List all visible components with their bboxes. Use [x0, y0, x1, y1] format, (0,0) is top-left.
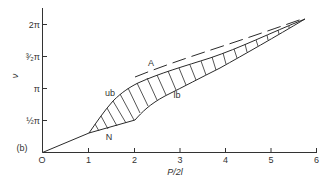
x-tick-labels: O 1 2 3 4 5 6 [38, 155, 319, 165]
hatch-line [107, 108, 117, 126]
label-lb: lb [173, 90, 180, 100]
x-tick-label-3: 3 [177, 155, 182, 165]
x-ticks [89, 148, 317, 153]
x-tick-label-1: 1 [86, 155, 91, 165]
hatch-line [245, 44, 247, 52]
x-axis-label: P/2l [167, 167, 184, 177]
hatch-line [190, 65, 196, 80]
y-tick-label-half-pi: ½π [26, 116, 40, 126]
x-tick-label-6: 6 [314, 155, 319, 165]
label-n: N [106, 132, 113, 142]
hatch-line [95, 124, 99, 131]
y-tick-labels: ½π π ³⁄₂π 2π [26, 20, 40, 126]
axes [43, 8, 318, 153]
y-tick-label-pi: π [34, 84, 40, 94]
hatch-line [179, 68, 186, 85]
hatch-line [234, 49, 237, 58]
origin-label: O [38, 155, 45, 165]
hatch-line [137, 83, 148, 106]
hatch-line [168, 71, 176, 90]
diagram-svg: O 1 2 3 4 5 6 P/2l ν ½π π ³⁄₂π 2π (b) [0, 0, 333, 182]
hatch-line [212, 57, 216, 70]
hatch-line [101, 116, 108, 129]
panel-label: (b) [17, 143, 28, 153]
x-tick-label-2: 2 [132, 155, 137, 165]
x-tick-label-4: 4 [223, 155, 228, 165]
y-axis-label: ν [10, 73, 20, 78]
hatch-line [267, 35, 268, 40]
x-tick-label-5: 5 [268, 155, 273, 165]
hatch-line [256, 40, 258, 46]
y-tick-label-two-pi: 2π [29, 20, 40, 30]
label-a: A [148, 58, 154, 68]
hatch-line [223, 53, 226, 64]
hatch-line [157, 75, 166, 95]
label-ub: ub [105, 88, 115, 98]
hatch-line [113, 101, 126, 123]
y-ticks [43, 25, 48, 121]
hatch-line [201, 61, 206, 75]
stability-band [89, 19, 305, 133]
diagram-figure: O 1 2 3 4 5 6 P/2l ν ½π π ³⁄₂π 2π (b) [0, 0, 333, 182]
hatch-line [278, 30, 279, 34]
hatch-line [128, 88, 140, 113]
hatch-line [147, 78, 157, 100]
hatching [95, 26, 289, 131]
n-line [43, 133, 90, 153]
y-tick-label-three-half-pi: ³⁄₂π [26, 52, 40, 62]
